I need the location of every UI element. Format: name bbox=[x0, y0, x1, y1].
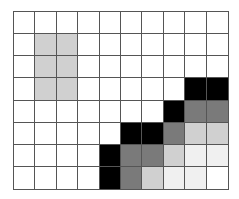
grid-cell bbox=[57, 34, 78, 56]
grid-cell bbox=[121, 145, 142, 167]
grid-cell bbox=[121, 34, 142, 56]
grid-cell bbox=[35, 101, 56, 123]
grid-cell bbox=[35, 78, 56, 100]
grid-cell bbox=[142, 56, 163, 78]
grid-cell bbox=[100, 167, 121, 189]
grid-cell bbox=[164, 34, 185, 56]
grid-cell bbox=[78, 145, 99, 167]
grid-cell bbox=[142, 78, 163, 100]
grid-cell bbox=[121, 123, 142, 145]
grid-cell bbox=[14, 145, 35, 167]
grid-cell bbox=[14, 167, 35, 189]
grid-cell bbox=[35, 12, 56, 34]
grid-cell bbox=[121, 78, 142, 100]
grid-cell bbox=[14, 78, 35, 100]
grid-cell bbox=[57, 56, 78, 78]
grid-cell bbox=[35, 123, 56, 145]
grid-cell bbox=[142, 123, 163, 145]
grid-cell bbox=[207, 167, 228, 189]
grid-cell bbox=[207, 145, 228, 167]
grid-cell bbox=[185, 123, 206, 145]
grid-cell bbox=[121, 12, 142, 34]
grid-cell bbox=[100, 12, 121, 34]
grid-cell bbox=[100, 123, 121, 145]
grid-cell bbox=[207, 34, 228, 56]
grid-cell bbox=[185, 34, 206, 56]
grid-cell bbox=[185, 12, 206, 34]
grid-cell bbox=[14, 34, 35, 56]
grid-cell bbox=[57, 78, 78, 100]
grid-cell bbox=[14, 123, 35, 145]
grid-cell bbox=[185, 78, 206, 100]
grid-cell bbox=[121, 56, 142, 78]
grid-cell bbox=[164, 56, 185, 78]
grid-cell bbox=[142, 12, 163, 34]
pixel-grid bbox=[13, 11, 229, 190]
grid-cell bbox=[78, 34, 99, 56]
grid-cell bbox=[57, 101, 78, 123]
grid-cell bbox=[164, 123, 185, 145]
grid-cell bbox=[142, 34, 163, 56]
grid-cell bbox=[100, 56, 121, 78]
grid-cell bbox=[164, 145, 185, 167]
grid-cell bbox=[78, 12, 99, 34]
grid-cell bbox=[185, 167, 206, 189]
grid-cell bbox=[185, 145, 206, 167]
grid-cell bbox=[207, 12, 228, 34]
grid-cell bbox=[78, 101, 99, 123]
grid-cell bbox=[207, 101, 228, 123]
grid-cell bbox=[57, 145, 78, 167]
grid-cell bbox=[100, 145, 121, 167]
grid-cell bbox=[14, 56, 35, 78]
grid-cell bbox=[185, 101, 206, 123]
grid-cell bbox=[35, 34, 56, 56]
grid-cell bbox=[78, 78, 99, 100]
grid-cell bbox=[78, 167, 99, 189]
grid-cell bbox=[57, 123, 78, 145]
grid-cell bbox=[78, 123, 99, 145]
grid-cell bbox=[14, 12, 35, 34]
grid-cell bbox=[57, 167, 78, 189]
grid-cell bbox=[121, 101, 142, 123]
grid-cell bbox=[142, 167, 163, 189]
grid-cell bbox=[78, 56, 99, 78]
grid-cell bbox=[35, 145, 56, 167]
grid-cell bbox=[207, 56, 228, 78]
grid-cell bbox=[100, 78, 121, 100]
grid-cell bbox=[142, 145, 163, 167]
grid-cell bbox=[35, 56, 56, 78]
grid-cell bbox=[57, 12, 78, 34]
grid-cell bbox=[164, 78, 185, 100]
grid-cell bbox=[14, 101, 35, 123]
grid-cell bbox=[185, 56, 206, 78]
grid-cell bbox=[121, 167, 142, 189]
grid-cell bbox=[207, 78, 228, 100]
grid-cell bbox=[164, 101, 185, 123]
grid-cell bbox=[100, 101, 121, 123]
grid-cell bbox=[35, 167, 56, 189]
grid-cell bbox=[207, 123, 228, 145]
grid-cell bbox=[164, 167, 185, 189]
grid-cell bbox=[164, 12, 185, 34]
grid-cell bbox=[142, 101, 163, 123]
grid-cell bbox=[100, 34, 121, 56]
